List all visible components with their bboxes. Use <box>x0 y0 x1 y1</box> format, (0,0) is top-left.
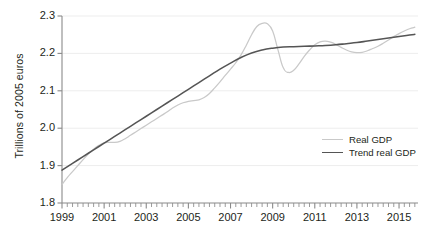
x-axis-tick-label: 2003 <box>126 211 166 223</box>
y-axis-tick-label: 2.2 <box>21 46 55 58</box>
legend-swatch-real-gdp <box>322 139 343 140</box>
y-axis-major-ticks <box>58 16 63 203</box>
x-axis-minor-ticks <box>62 203 415 209</box>
x-axis-tick-label: 2001 <box>84 211 124 223</box>
y-axis-tick-label: 2.1 <box>21 84 55 96</box>
chart-plot-area <box>0 0 430 243</box>
y-axis-tick-label: 2.0 <box>21 121 55 133</box>
legend-label-real-gdp: Real GDP <box>349 133 392 146</box>
x-axis-tick-label: 2013 <box>337 211 377 223</box>
y-axis-tick-label: 1.8 <box>21 196 55 208</box>
legend-label-trend-real-gdp: Trend real GDP <box>349 146 416 159</box>
series-line-real-gdp <box>62 23 415 184</box>
x-axis-tick-label: 2007 <box>211 211 251 223</box>
chart-legend: Real GDP Trend real GDP <box>322 133 416 159</box>
chart-container: Trillions of 2005 euros 1.81.92.02.12.22… <box>0 0 430 243</box>
legend-item-real-gdp: Real GDP <box>322 133 416 146</box>
legend-item-trend-real-gdp: Trend real GDP <box>322 146 416 159</box>
legend-swatch-trend-real-gdp <box>322 152 343 153</box>
x-axis-tick-label: 2009 <box>253 211 293 223</box>
data-series-group <box>62 23 415 184</box>
x-axis-tick-label: 1999 <box>42 211 82 223</box>
x-axis-tick-label: 2005 <box>168 211 208 223</box>
y-axis-tick-label: 1.9 <box>21 159 55 171</box>
x-axis-tick-label: 2015 <box>379 211 419 223</box>
x-axis-tick-label: 2011 <box>295 211 335 223</box>
y-axis-tick-label: 2.3 <box>21 9 55 21</box>
